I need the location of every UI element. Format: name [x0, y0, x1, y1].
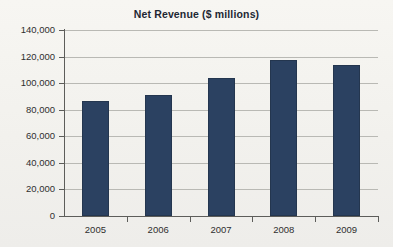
- bar-2007[interactable]: [208, 78, 235, 216]
- x-axis-tick: [190, 217, 191, 222]
- y-axis-label: 100,000: [0, 77, 55, 88]
- y-axis-tick: [59, 136, 64, 137]
- x-axis-tick: [252, 217, 253, 222]
- y-axis-label: 20,000: [0, 183, 55, 194]
- y-axis-label: 40,000: [0, 157, 55, 168]
- x-axis-label-2006: 2006: [127, 224, 189, 235]
- chart-title: Net Revenue ($ millions): [0, 8, 393, 20]
- y-axis-tick: [59, 30, 64, 31]
- bar-2005[interactable]: [82, 101, 109, 216]
- y-axis-label: 140,000: [0, 24, 55, 35]
- y-axis-label: 60,000: [0, 130, 55, 141]
- plot-area: [64, 30, 378, 216]
- y-axis-line: [64, 29, 65, 217]
- x-axis-label-2007: 2007: [190, 224, 252, 235]
- y-axis-tick: [59, 83, 64, 84]
- gridline: [64, 57, 378, 58]
- x-axis-label-2009: 2009: [316, 224, 378, 235]
- x-axis-tick: [127, 217, 128, 222]
- y-axis-tick: [59, 110, 64, 111]
- y-axis-label: 80,000: [0, 104, 55, 115]
- bar-2009[interactable]: [333, 65, 360, 216]
- x-axis-line: [64, 216, 379, 217]
- bar-2008[interactable]: [270, 60, 297, 216]
- y-axis-tick: [59, 57, 64, 58]
- bar-2006[interactable]: [145, 95, 172, 216]
- y-axis-label: 0: [0, 210, 55, 221]
- bar-chart-figure: Net Revenue ($ millions) 020,00040,00060…: [0, 0, 393, 247]
- gridline: [64, 30, 378, 31]
- y-axis-tick: [59, 163, 64, 164]
- x-axis-label-2008: 2008: [253, 224, 315, 235]
- x-axis-label-2005: 2005: [64, 224, 126, 235]
- y-axis-label: 120,000: [0, 51, 55, 62]
- y-axis-tick: [59, 189, 64, 190]
- x-axis-tick: [378, 217, 379, 222]
- y-axis-tick: [59, 216, 64, 217]
- x-axis-tick: [315, 217, 316, 222]
